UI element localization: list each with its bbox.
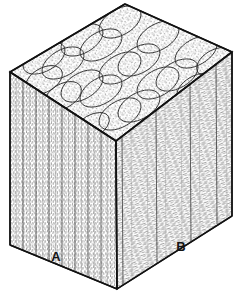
label-a: A xyxy=(51,249,61,264)
block-diagram: A B xyxy=(0,0,244,293)
figure-root: A B xyxy=(0,0,244,293)
label-b: B xyxy=(176,239,185,254)
